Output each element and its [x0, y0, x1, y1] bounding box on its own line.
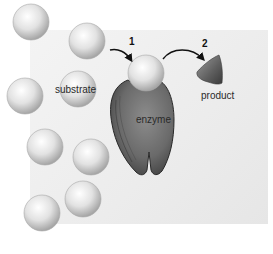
substrate-label: substrate — [55, 84, 96, 95]
product-shape — [197, 55, 223, 84]
substrate-sphere — [27, 129, 63, 165]
enzyme-shape — [111, 80, 174, 175]
substrate-sphere — [73, 139, 109, 175]
arrow-step-1 — [110, 49, 131, 60]
substrate-sphere — [69, 23, 105, 59]
diagram-canvas — [0, 0, 273, 254]
enzyme-label: enzyme — [136, 114, 171, 125]
substrate-sphere — [65, 181, 101, 217]
arrow-step-2 — [163, 50, 203, 59]
bound-substrate-sphere — [128, 55, 164, 91]
substrate-sphere — [24, 195, 60, 231]
substrate-spheres — [7, 4, 109, 231]
substrate-sphere — [7, 78, 43, 114]
step-2-number: 2 — [202, 38, 208, 49]
product-label: product — [201, 90, 234, 101]
substrate-sphere — [13, 4, 49, 40]
step-1-number: 1 — [129, 36, 135, 47]
